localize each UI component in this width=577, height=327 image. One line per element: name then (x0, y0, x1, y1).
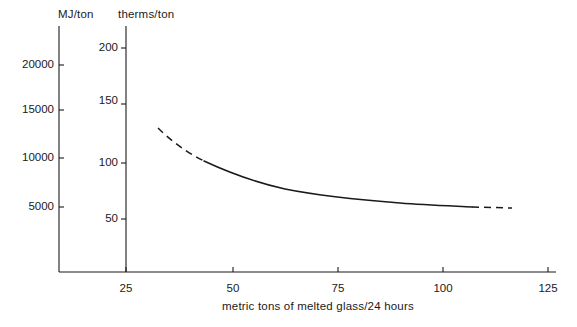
plot-area (0, 0, 577, 327)
chart-figure: MJ/ton therms/ton metric tons of melted … (0, 0, 577, 327)
curve-dashed-left (158, 128, 204, 161)
curve-solid-measured (204, 161, 472, 207)
curve-dashed-right (472, 207, 512, 208)
